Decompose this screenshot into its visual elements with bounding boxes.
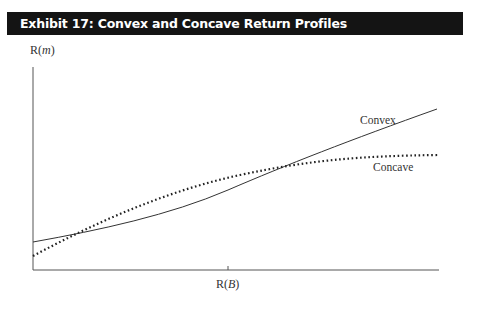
concave-label: Concave — [373, 161, 413, 173]
x-axis-label-suffix: ) — [235, 277, 239, 291]
convex-curve — [33, 109, 437, 242]
x-axis-label: R(B) — [216, 277, 239, 292]
convex-label: Convex — [360, 114, 396, 126]
x-axis-label-prefix: R( — [216, 277, 228, 291]
chart-plot-area: Convex Concave — [0, 0, 478, 310]
